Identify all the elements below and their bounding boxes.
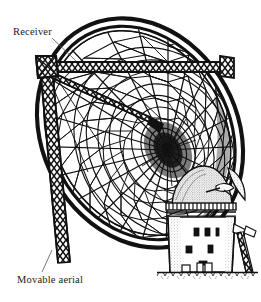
receiver-apex [36,56,58,78]
receiver-label: Receiver [13,26,52,37]
radio-telescope-figure [0,0,261,302]
telescope-illustration-svg [0,0,261,302]
movable-aerial-label: Movable aerial [17,274,83,285]
truss-right-joint [220,56,234,78]
truss-horizontal-beam [40,62,226,72]
